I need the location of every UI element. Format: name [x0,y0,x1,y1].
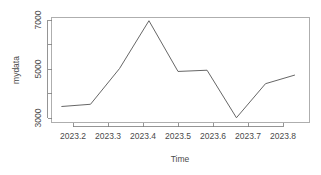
x-tick-label-2023-8: 2023.8 [270,131,296,141]
x-tick-label-2023-3: 2023.3 [95,131,121,141]
plot-panel-box [52,18,310,123]
y-tick-label-7000: 7000 [33,10,43,29]
y-tick-label-5000: 5000 [33,59,43,78]
time-series-chart: 7000 5000 3000 mydata 2023.2 2023.3 2023… [0,0,321,175]
plot-root: 7000 5000 3000 mydata 2023.2 2023.3 2023… [0,0,321,175]
y-axis-title: mydata [11,56,21,84]
x-tick-label-2023-4: 2023.4 [130,131,156,141]
x-tick-label-2023-7: 2023.7 [235,131,261,141]
y-axis [48,20,52,118]
x-axis-title: Time [171,154,190,164]
x-tick-label-2023-6: 2023.6 [200,131,226,141]
x-tick-label-2023-5: 2023.5 [165,131,191,141]
x-tick-label-2023-2: 2023.2 [60,131,86,141]
x-axis [73,123,283,127]
y-tick-label-3000: 3000 [33,108,43,127]
data-series-line [62,21,295,118]
